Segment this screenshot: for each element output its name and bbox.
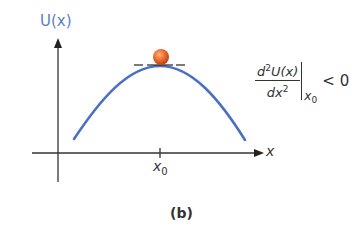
fraction-denominator: dx2: [255, 81, 300, 101]
figure-caption: (b): [170, 205, 193, 221]
num-body: U(x): [271, 64, 298, 79]
eval-sub: 0: [311, 96, 317, 106]
evaluation-point: x0: [304, 89, 317, 105]
den-body: dx: [267, 86, 283, 101]
potential-energy-diagram: [0, 0, 364, 238]
y-axis: [54, 38, 62, 182]
ball-icon: [153, 49, 169, 65]
evaluation-bar: x0: [301, 62, 320, 100]
fraction-numerator: d2U(x): [255, 60, 300, 81]
potential-curve: [74, 66, 245, 140]
den-sup: 2: [283, 84, 289, 94]
x-axis-arrow-icon: [254, 149, 264, 157]
fraction: d2U(x) dx2: [255, 60, 300, 102]
inequality: < 0: [322, 72, 349, 90]
x-axis-label: x: [266, 143, 274, 159]
x-axis: [32, 148, 264, 158]
y-axis-arrow-icon: [54, 38, 62, 48]
x0-tick-label: x0: [153, 158, 168, 177]
second-derivative-condition: d2U(x) dx2 x0< 0: [255, 60, 349, 102]
x0-sub: 0: [161, 166, 167, 177]
y-axis-label: U(x): [40, 12, 72, 30]
